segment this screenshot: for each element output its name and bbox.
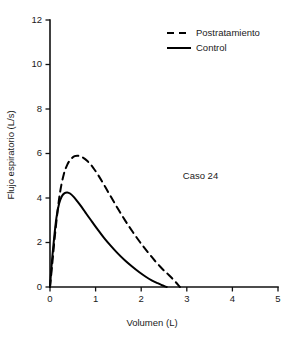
x-tick-label: 4 — [230, 293, 235, 304]
x-tick-label: 5 — [275, 293, 280, 304]
series-line-control — [50, 192, 167, 287]
y-tick-label: 6 — [37, 147, 42, 158]
x-tick-label: 0 — [47, 293, 52, 304]
y-tick-label: 8 — [37, 103, 42, 114]
legend-label-control: Control — [196, 42, 227, 53]
x-axis-title: Volumen (L) — [126, 317, 177, 328]
x-tick-label: 2 — [139, 293, 144, 304]
series-line-postratamiento — [50, 156, 180, 287]
y-tick-label: 10 — [31, 58, 42, 69]
y-tick-label: 12 — [31, 14, 42, 25]
axes-group — [50, 20, 278, 287]
y-axis-ticks: 024681012 — [31, 14, 50, 292]
legend-label-postratamiento: Postratamiento — [196, 27, 260, 38]
y-tick-label: 4 — [37, 192, 42, 203]
series-group — [50, 156, 180, 287]
case-annotation: Caso 24 — [183, 170, 218, 181]
chart-legend: PostratamientoControl — [167, 27, 260, 53]
annotation-group: Caso 24 — [183, 170, 218, 181]
chart-canvas: 024681012 012345 Caso 24 Volumen (L) Flu… — [0, 0, 295, 337]
y-tick-label: 2 — [37, 236, 42, 247]
x-tick-label: 3 — [184, 293, 189, 304]
y-axis-title: Flujo espiratorio (L/s) — [5, 110, 16, 199]
y-tick-label: 0 — [37, 281, 42, 292]
flow-volume-chart: 024681012 012345 Caso 24 Volumen (L) Flu… — [0, 0, 295, 337]
x-axis-ticks: 012345 — [47, 287, 280, 304]
x-tick-label: 1 — [93, 293, 98, 304]
